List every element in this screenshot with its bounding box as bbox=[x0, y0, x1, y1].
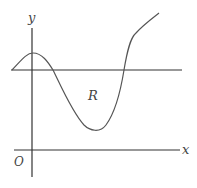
x-axis-label: x bbox=[182, 142, 190, 157]
y-axis-label: y bbox=[27, 10, 36, 25]
function-graph: y x O R bbox=[0, 0, 197, 188]
region-label: R bbox=[87, 88, 98, 103]
origin-label: O bbox=[14, 155, 24, 169]
curve bbox=[12, 13, 159, 130]
